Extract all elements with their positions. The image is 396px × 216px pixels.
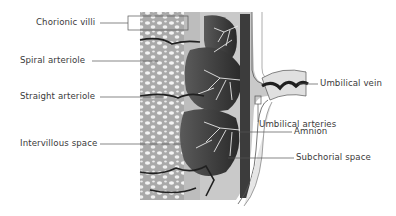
label-intervillous-space: Intervillous space bbox=[20, 138, 97, 148]
label-straight-arteriole: Straight arteriole bbox=[20, 91, 95, 101]
label-spiral-arteriole: Spiral arteriole bbox=[20, 55, 85, 65]
decidua-layer bbox=[140, 12, 204, 200]
label-umbilical-vein: Umbilical vein bbox=[320, 78, 382, 88]
label-subchorial-space: Subchorial space bbox=[296, 152, 371, 162]
label-chorionic-villi: Chorionic villi bbox=[36, 17, 95, 27]
placenta-illustration bbox=[0, 0, 396, 216]
placenta-diagram: Chorionic villi Spiral arteriole Straigh… bbox=[0, 0, 396, 216]
umbilical-cord bbox=[262, 70, 308, 100]
label-amnion: Amnion bbox=[294, 126, 327, 136]
